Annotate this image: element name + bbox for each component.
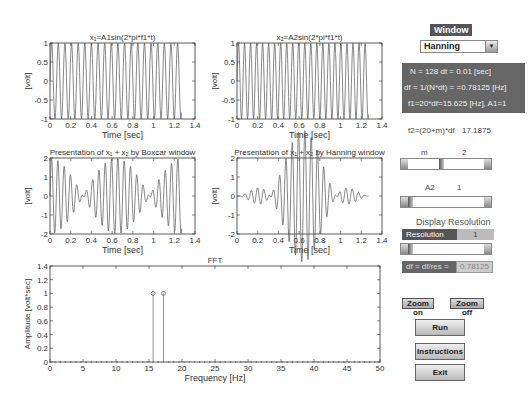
svg-text:[volt]: [volt] [23, 188, 32, 205]
resolution-value: 1 [457, 229, 494, 240]
m-slider-thumb[interactable] [439, 159, 444, 169]
slider-left-arrow-icon[interactable] [401, 244, 408, 254]
slider-right-arrow-icon[interactable] [484, 244, 491, 254]
df-label: df = df/res = [402, 261, 460, 273]
info-line-3: f1=20*df=15.625 [Hz], A1=1 [408, 99, 507, 108]
svg-text:1: 1 [231, 173, 236, 182]
svg-text:Presentation of x₁ + x₂ by Box: Presentation of x₁ + x₂ by Boxcar window [50, 148, 196, 157]
svg-text:0.2: 0.2 [252, 236, 264, 245]
svg-text:1: 1 [151, 121, 156, 130]
svg-text:0.4: 0.4 [86, 121, 98, 130]
a2-label: A2 [425, 183, 435, 192]
svg-text:15: 15 [145, 364, 154, 373]
svg-text:Time [sec]: Time [sec] [102, 245, 143, 255]
m-label: m [421, 148, 428, 157]
svg-text:40: 40 [310, 364, 319, 373]
svg-text:0.6: 0.6 [107, 121, 119, 130]
plot-boxcar: 210-1-200.20.40.60.811.21.4Presentation … [23, 148, 201, 255]
svg-text:45: 45 [343, 364, 352, 373]
m-value: 2 [462, 148, 466, 157]
svg-text:x₁=A1sin(2*pi*f1*t): x₁=A1sin(2*pi*f1*t) [90, 33, 156, 42]
info-line-2: df = 1/(N*dt) = =0.78125 [Hz] [404, 83, 507, 92]
svg-text:-0.5: -0.5 [34, 96, 48, 105]
svg-text:0: 0 [48, 364, 53, 373]
svg-text:1: 1 [151, 236, 156, 245]
svg-text:2: 2 [44, 154, 49, 163]
a2-slider-thumb[interactable] [408, 197, 413, 207]
svg-text:-1: -1 [41, 211, 49, 220]
zoom-off-button[interactable]: Zoom off [450, 298, 484, 309]
svg-text:0.6: 0.6 [107, 236, 119, 245]
svg-text:0.8: 0.8 [314, 121, 326, 130]
svg-text:Time [sec]: Time [sec] [102, 130, 143, 140]
f2-label: f2=(20+m)*df [408, 126, 455, 135]
svg-text:0.4: 0.4 [273, 121, 285, 130]
svg-text:25: 25 [211, 364, 220, 373]
svg-text:0: 0 [235, 236, 240, 245]
a2-slider[interactable] [400, 196, 492, 208]
plot-x2: 10.50-0.5-100.20.40.60.811.21.4x₂=A2sin(… [210, 33, 388, 140]
svg-text:-0.5: -0.5 [221, 96, 235, 105]
resolution-slider-thumb[interactable] [408, 244, 413, 254]
svg-text:0.6: 0.6 [294, 236, 306, 245]
svg-text:Frequency [Hz]: Frequency [Hz] [184, 373, 245, 383]
instructions-button[interactable]: Instructions [415, 343, 465, 360]
svg-text:10: 10 [112, 364, 121, 373]
svg-text:1.2: 1.2 [169, 236, 181, 245]
resolution-label: Resolution [402, 229, 457, 240]
svg-text:0.6: 0.6 [37, 317, 49, 326]
svg-text:1.4: 1.4 [376, 121, 388, 130]
slider-right-arrow-icon[interactable] [484, 159, 491, 169]
info-panel: N = 128 dt = 0.01 [sec] df = 1/(N*dt) = … [402, 63, 525, 113]
svg-text:0: 0 [231, 192, 236, 201]
svg-text:Presentation of x₁ + x₂ by Han: Presentation of x₁ + x₂ by Hanning windo… [234, 148, 385, 157]
slider-left-arrow-icon[interactable] [401, 197, 408, 207]
svg-text:0.8: 0.8 [127, 236, 139, 245]
m-slider[interactable] [400, 158, 492, 170]
slider-right-arrow-icon[interactable] [484, 197, 491, 207]
svg-text:0.2: 0.2 [65, 236, 77, 245]
svg-text:Time [sec]: Time [sec] [289, 130, 330, 140]
svg-text:1: 1 [44, 39, 49, 48]
svg-text:1.4: 1.4 [376, 236, 388, 245]
svg-text:0.6: 0.6 [294, 121, 306, 130]
svg-text:1.2: 1.2 [169, 121, 181, 130]
a2-value: 1 [457, 183, 461, 192]
df-value: 0.78125 [456, 261, 493, 273]
window-select-value: Hanning [424, 41, 460, 51]
svg-text:1: 1 [338, 236, 343, 245]
svg-text:0.2: 0.2 [252, 121, 264, 130]
svg-text:35: 35 [277, 364, 286, 373]
svg-text:0: 0 [44, 192, 49, 201]
svg-text:[volt]: [volt] [210, 188, 219, 205]
zoom-on-button[interactable]: Zoom on [402, 298, 434, 309]
svg-text:0.5: 0.5 [37, 58, 49, 67]
svg-text:[volt]: [volt] [23, 73, 32, 90]
svg-text:0.4: 0.4 [37, 331, 49, 340]
svg-text:0.8: 0.8 [37, 303, 49, 312]
slider-left-arrow-icon[interactable] [401, 159, 408, 169]
svg-text:-1: -1 [228, 211, 236, 220]
svg-text:0.8: 0.8 [314, 236, 326, 245]
run-button[interactable]: Run [415, 319, 465, 336]
plot-x1: 10.50-0.5-100.20.40.60.811.21.4x₁=A1sin(… [23, 33, 201, 140]
svg-text:[volt]: [volt] [210, 73, 219, 90]
svg-text:1: 1 [44, 173, 49, 182]
resolution-slider[interactable] [400, 243, 492, 255]
dropdown-arrow-icon: ▼ [485, 41, 497, 52]
window-select[interactable]: Hanning ▼ [420, 40, 498, 53]
svg-text:0: 0 [44, 77, 49, 86]
svg-text:1.2: 1.2 [356, 121, 368, 130]
svg-text:1: 1 [338, 121, 343, 130]
svg-text:1.2: 1.2 [356, 236, 368, 245]
svg-text:50: 50 [376, 364, 385, 373]
svg-text:1: 1 [44, 289, 49, 298]
exit-button[interactable]: Exit [415, 364, 465, 381]
svg-text:0: 0 [48, 236, 53, 245]
display-resolution-label: Display Resolution [416, 217, 491, 227]
svg-text:0.8: 0.8 [127, 121, 139, 130]
svg-text:1.4: 1.4 [189, 121, 201, 130]
svg-text:Amplitude [volt*sec]: Amplitude [volt*sec] [23, 279, 32, 349]
svg-text:0.4: 0.4 [86, 236, 98, 245]
svg-text:30: 30 [244, 364, 253, 373]
